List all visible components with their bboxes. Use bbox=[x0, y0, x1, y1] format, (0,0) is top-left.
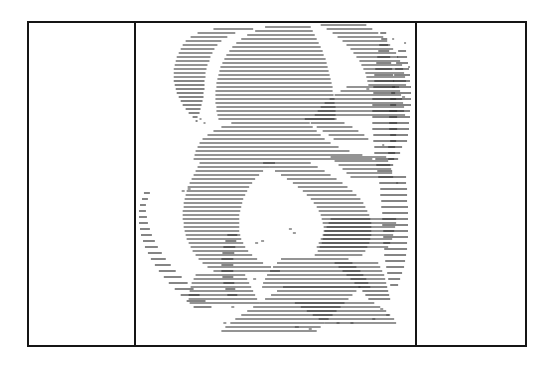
panel-right bbox=[417, 23, 525, 345]
ruled-frame bbox=[27, 21, 527, 347]
panel-left bbox=[29, 23, 136, 345]
halftone-scanline-illustration bbox=[136, 23, 415, 345]
panel-center bbox=[136, 23, 417, 345]
scanline-group bbox=[139, 25, 411, 331]
scanned-page bbox=[0, 0, 554, 365]
